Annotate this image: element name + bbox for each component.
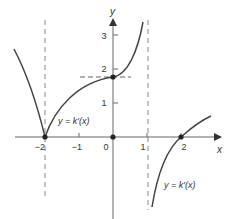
curve-right-branch — [152, 116, 211, 207]
graph-canvas: y x −2 −1 0 1 2 1 2 3 y = k′(x) y = k′(x… — [0, 0, 228, 219]
point-cusp — [42, 134, 47, 139]
x-axis-arrow-icon — [214, 133, 222, 141]
x-tick-label: 2 — [181, 142, 186, 152]
curve-left-branch — [14, 49, 45, 137]
y-tick-label: 3 — [101, 31, 106, 41]
x-tick-label: −2 — [35, 142, 45, 152]
x-tick-label: 1 — [140, 142, 145, 152]
point-origin — [110, 134, 115, 139]
y-tick-label: 2 — [101, 64, 106, 74]
y-axis-label: y — [109, 6, 116, 17]
point-root — [178, 134, 183, 139]
curve-label-lower: y = k′(x) — [163, 180, 195, 190]
x-tick-label: −1 — [72, 142, 82, 152]
x-tick-label: 0 — [103, 142, 108, 152]
point-y-intercept — [110, 74, 115, 79]
y-axis-arrow-icon — [109, 18, 117, 26]
graph-figure: y x −2 −1 0 1 2 1 2 3 y = k′(x) y = k′(x… — [0, 0, 228, 219]
curve-label-upper: y = k′(x) — [57, 116, 89, 126]
y-tick-label: 1 — [101, 98, 106, 108]
x-axis-label: x — [216, 144, 223, 155]
